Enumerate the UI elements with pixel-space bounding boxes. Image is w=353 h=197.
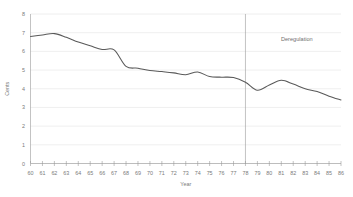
- x-tick-label: 60: [28, 170, 34, 176]
- x-tick-label: 68: [123, 170, 129, 176]
- x-tick-label: 64: [75, 170, 81, 176]
- chart-background: [0, 0, 353, 197]
- y-tick-label: 6: [22, 48, 25, 54]
- x-tick-label: 84: [314, 170, 320, 176]
- x-tick-label: 63: [63, 170, 69, 176]
- y-tick-label: 3: [22, 104, 25, 110]
- x-tick-label: 70: [147, 170, 153, 176]
- x-tick-label: 75: [207, 170, 213, 176]
- x-tick-label: 82: [290, 170, 296, 176]
- y-tick-label: 1: [22, 142, 25, 148]
- y-axis-tick-labels: 012345678: [22, 11, 25, 167]
- y-tick-label: 7: [22, 30, 25, 36]
- x-tick-label: 76: [219, 170, 225, 176]
- x-tick-label: 65: [87, 170, 93, 176]
- x-tick-label: 67: [111, 170, 117, 176]
- chart-canvas: 012345678 606162636465666768697071727374…: [0, 0, 353, 197]
- x-tick-label: 78: [242, 170, 248, 176]
- x-tick-label: 66: [99, 170, 105, 176]
- x-axis-title: Year: [180, 181, 191, 187]
- y-tick-label: 0: [22, 161, 25, 167]
- line-chart: 012345678 606162636465666768697071727374…: [0, 0, 353, 197]
- x-tick-label: 71: [159, 170, 165, 176]
- y-tick-label: 2: [22, 123, 25, 129]
- x-tick-label: 73: [183, 170, 189, 176]
- x-tick-label: 61: [39, 170, 45, 176]
- x-tick-label: 72: [171, 170, 177, 176]
- deregulation-annotation-label: Deregulation: [281, 36, 313, 42]
- y-tick-label: 8: [22, 11, 25, 17]
- x-tick-label: 77: [231, 170, 237, 176]
- x-tick-label: 69: [135, 170, 141, 176]
- y-tick-label: 4: [22, 86, 25, 92]
- x-tick-label: 86: [338, 170, 344, 176]
- x-tick-label: 83: [302, 170, 308, 176]
- x-tick-label: 74: [195, 170, 201, 176]
- y-axis-title: Cents: [4, 81, 10, 95]
- x-tick-label: 81: [278, 170, 284, 176]
- x-tick-label: 79: [254, 170, 260, 176]
- y-tick-label: 5: [22, 67, 25, 73]
- x-tick-label: 85: [326, 170, 332, 176]
- x-tick-label: 80: [266, 170, 272, 176]
- x-tick-label: 62: [51, 170, 57, 176]
